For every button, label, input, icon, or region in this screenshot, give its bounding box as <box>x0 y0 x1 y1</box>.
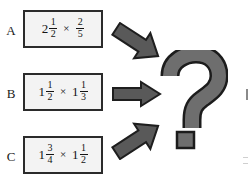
numerator: 2 <box>77 17 84 27</box>
multiplication-operator: × <box>58 86 68 97</box>
whole-number: 1 <box>38 148 46 161</box>
expression-box-b: 1 1 2 × 1 1 3 <box>23 73 103 111</box>
fraction: 1 2 <box>80 143 88 165</box>
numerator: 1 <box>80 143 87 153</box>
term-b-right: 1 1 3 <box>72 80 88 102</box>
fraction: 1 2 <box>46 80 54 102</box>
expression-a: 2 1 2 × 2 5 <box>42 17 85 39</box>
whole-number: 1 <box>72 148 80 161</box>
expression-c: 1 3 4 × 1 1 2 <box>38 143 87 165</box>
expression-b: 1 1 2 × 1 1 3 <box>38 80 87 102</box>
expression-box-a: 2 1 2 × 2 5 <box>23 10 103 48</box>
numerator: 3 <box>46 143 53 153</box>
term-c-left: 1 3 4 <box>38 143 54 165</box>
edge-artifact-mark <box>246 89 248 100</box>
denominator: 2 <box>46 92 53 102</box>
edge-artifact-mark <box>243 163 248 164</box>
row-label-c: C <box>4 150 18 163</box>
fraction: 2 5 <box>76 17 84 39</box>
figure-canvas: A 2 1 2 × 2 5 <box>0 0 249 174</box>
arrow-right-icon <box>111 80 163 108</box>
numerator: 1 <box>80 80 87 90</box>
numerator: 1 <box>50 17 57 27</box>
whole-number: 2 <box>42 22 50 35</box>
fraction: 3 4 <box>46 143 54 165</box>
denominator: 3 <box>80 92 87 102</box>
row-label-a: A <box>4 24 18 37</box>
edge-artifact-mark <box>243 157 248 158</box>
question-mark-icon <box>158 50 228 150</box>
row-label-b: B <box>4 87 18 100</box>
numerator: 1 <box>46 80 53 90</box>
term-a-right: 2 5 <box>75 17 84 39</box>
fraction: 1 3 <box>80 80 88 102</box>
denominator: 2 <box>80 155 87 165</box>
denominator: 4 <box>46 155 53 165</box>
term-c-right: 1 1 2 <box>72 143 88 165</box>
multiplication-operator: × <box>61 23 71 34</box>
denominator: 5 <box>77 29 84 39</box>
term-b-left: 1 1 2 <box>38 80 54 102</box>
term-a-left: 2 1 2 <box>42 17 58 39</box>
fraction: 1 2 <box>49 17 57 39</box>
multiplication-operator: × <box>58 149 68 160</box>
expression-box-c: 1 3 4 × 1 1 2 <box>23 136 103 174</box>
denominator: 2 <box>50 29 57 39</box>
whole-number: 1 <box>72 85 80 98</box>
whole-number: 1 <box>38 85 46 98</box>
